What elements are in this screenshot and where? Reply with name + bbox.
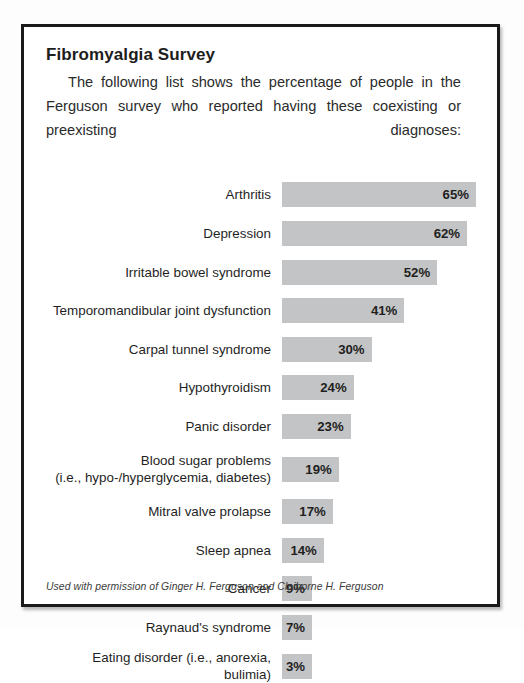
bar: 23% bbox=[282, 414, 351, 439]
bar-track: 52% bbox=[282, 259, 475, 285]
bar-value-label: 17% bbox=[299, 504, 325, 519]
bar: 19% bbox=[282, 457, 339, 482]
bar-value-label: 24% bbox=[320, 380, 346, 395]
bar-track: 14% bbox=[282, 537, 475, 563]
bar-track: 3% bbox=[282, 653, 475, 679]
bar-category-label: Blood sugar problems (i.e., hypo-/hyperg… bbox=[46, 452, 282, 486]
chart-row: Carpal tunnel syndrome30% bbox=[46, 336, 475, 362]
bar-value-label: 30% bbox=[338, 342, 364, 357]
bar: 52% bbox=[282, 260, 437, 285]
bar-category-label: Irritable bowel syndrome bbox=[46, 264, 282, 281]
chart-row: Arthritis65% bbox=[46, 182, 475, 208]
bar-track: 30% bbox=[282, 336, 475, 362]
bar-value-label: 14% bbox=[290, 543, 316, 558]
chart-row: Eating disorder (i.e., anorexia, bulimia… bbox=[46, 653, 475, 679]
bar-track: 19% bbox=[282, 452, 475, 486]
bar-value-label: 52% bbox=[404, 265, 430, 280]
credit-line: Used with permission of Ginger H. Fergus… bbox=[46, 581, 384, 592]
bar: 7% bbox=[282, 615, 312, 640]
bar: 24% bbox=[282, 375, 354, 400]
bar-category-label: Temporomandibular joint dysfunction bbox=[46, 302, 282, 319]
bar-category-label: Arthritis bbox=[46, 186, 282, 203]
bar: 41% bbox=[282, 298, 404, 323]
bar-category-label: Raynaud's syndrome bbox=[46, 619, 282, 636]
bar-category-label: Mitral valve prolapse bbox=[46, 503, 282, 520]
bar-value-label: 65% bbox=[443, 187, 469, 202]
bar-category-label: Depression bbox=[46, 225, 282, 242]
chart-row: Mitral valve prolapse17% bbox=[46, 499, 475, 525]
bar-category-label: Eating disorder (i.e., anorexia, bulimia… bbox=[46, 649, 282, 683]
bar: 65% bbox=[282, 182, 476, 207]
bar-value-label: 19% bbox=[305, 462, 331, 477]
figure-frame: Fibromyalgia Survey The following list s… bbox=[21, 24, 500, 607]
bar-value-label: 23% bbox=[317, 419, 343, 434]
bar-category-label: Sleep apnea bbox=[46, 542, 282, 559]
bar-track: 24% bbox=[282, 375, 475, 401]
figure-title: Fibromyalgia Survey bbox=[46, 45, 475, 65]
bar: 17% bbox=[282, 499, 333, 524]
bar-value-label: 3% bbox=[286, 659, 305, 674]
chart-row: Raynaud's syndrome7% bbox=[46, 614, 475, 640]
bar-category-label: Panic disorder bbox=[46, 418, 282, 435]
bar-category-label: Hypothyroidism bbox=[46, 379, 282, 396]
bar-track: 62% bbox=[282, 221, 475, 247]
bar-track: 17% bbox=[282, 499, 475, 525]
bar: 62% bbox=[282, 221, 467, 246]
chart-row: Temporomandibular joint dysfunction41% bbox=[46, 298, 475, 324]
chart-row: Hypothyroidism24% bbox=[46, 375, 475, 401]
bar: 14% bbox=[282, 538, 324, 563]
figure-content: Fibromyalgia Survey The following list s… bbox=[24, 27, 497, 604]
chart-row: Sleep apnea14% bbox=[46, 537, 475, 563]
intro-paragraph: The following list shows the percentage … bbox=[46, 71, 461, 166]
chart-row: Panic disorder23% bbox=[46, 414, 475, 440]
bar-category-label: Carpal tunnel syndrome bbox=[46, 341, 282, 358]
bar-track: 65% bbox=[282, 182, 476, 208]
bar-track: 7% bbox=[282, 614, 475, 640]
bar: 30% bbox=[282, 337, 372, 362]
chart-row: Depression62% bbox=[46, 221, 475, 247]
chart-row: Blood sugar problems (i.e., hypo-/hyperg… bbox=[46, 452, 475, 486]
chart-row: Irritable bowel syndrome52% bbox=[46, 259, 475, 285]
bar-value-label: 7% bbox=[286, 620, 305, 635]
bar-value-label: 62% bbox=[434, 226, 460, 241]
bar-track: 41% bbox=[282, 298, 475, 324]
bar: 3% bbox=[282, 654, 312, 679]
bar-chart: Arthritis65%Depression62%Irritable bowel… bbox=[46, 182, 475, 679]
bar-track: 23% bbox=[282, 414, 475, 440]
bar-value-label: 41% bbox=[371, 303, 397, 318]
